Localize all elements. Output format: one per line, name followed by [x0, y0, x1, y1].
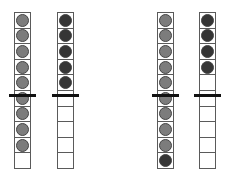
- frame-cell: [14, 90, 31, 107]
- frame-cell: [57, 90, 74, 107]
- ten-frame-column-3: [157, 12, 174, 169]
- frame-cell: [157, 106, 174, 123]
- gray-counter-circle-icon: [159, 123, 172, 136]
- five-divider-bar: [152, 94, 179, 97]
- gray-counter-circle-icon: [16, 45, 29, 58]
- frame-cell: [157, 59, 174, 76]
- gray-counter-circle-icon: [159, 29, 172, 42]
- frame-cell: [157, 74, 174, 91]
- five-divider-bar: [52, 94, 79, 97]
- frame-cell: [57, 74, 74, 91]
- frame-cell: [199, 137, 216, 154]
- frame-cell: [157, 43, 174, 60]
- frame-cell: [199, 106, 216, 123]
- gray-counter-circle-icon: [16, 107, 29, 120]
- ten-frame-column-1: [14, 12, 31, 169]
- frame-cell: [199, 59, 216, 76]
- frame-cell: [57, 59, 74, 76]
- gray-counter-circle-icon: [16, 29, 29, 42]
- frame-cell: [57, 121, 74, 138]
- frame-cell: [14, 43, 31, 60]
- frame-cell: [14, 152, 31, 169]
- dark-counter-circle-icon: [201, 45, 214, 58]
- frame-cell: [14, 121, 31, 138]
- gray-counter-circle-icon: [16, 139, 29, 152]
- frame-cell: [199, 43, 216, 60]
- frame-cell: [57, 152, 74, 169]
- dark-counter-circle-icon: [59, 29, 72, 42]
- frame-cell: [57, 106, 74, 123]
- frame-cell: [14, 137, 31, 154]
- frame-cell: [57, 28, 74, 45]
- frame-cell: [57, 137, 74, 154]
- gray-counter-circle-icon: [159, 76, 172, 89]
- gray-counter-circle-icon: [16, 123, 29, 136]
- dark-counter-circle-icon: [201, 29, 214, 42]
- dark-counter-circle-icon: [59, 14, 72, 27]
- gray-counter-circle-icon: [16, 76, 29, 89]
- frame-cell: [199, 121, 216, 138]
- gray-counter-circle-icon: [16, 61, 29, 74]
- dark-counter-circle-icon: [201, 14, 214, 27]
- frame-cell: [199, 90, 216, 107]
- frame-cell: [57, 43, 74, 60]
- dark-counter-circle-icon: [59, 61, 72, 74]
- frame-cell: [14, 28, 31, 45]
- dark-counter-circle-icon: [159, 154, 172, 167]
- frame-cell: [157, 152, 174, 169]
- frame-cell: [199, 12, 216, 29]
- frame-cell: [199, 152, 216, 169]
- frame-cell: [157, 28, 174, 45]
- frame-cell: [157, 90, 174, 107]
- ten-frame-column-2: [57, 12, 74, 169]
- gray-counter-circle-icon: [16, 14, 29, 27]
- gray-counter-circle-icon: [159, 14, 172, 27]
- frame-cell: [199, 28, 216, 45]
- gray-counter-circle-icon: [159, 45, 172, 58]
- frame-cell: [199, 74, 216, 91]
- dark-counter-circle-icon: [59, 45, 72, 58]
- frame-cell: [157, 121, 174, 138]
- gray-counter-circle-icon: [159, 61, 172, 74]
- frame-cell: [157, 12, 174, 29]
- frame-cell: [14, 12, 31, 29]
- dark-counter-circle-icon: [201, 61, 214, 74]
- frame-cell: [14, 106, 31, 123]
- gray-counter-circle-icon: [159, 107, 172, 120]
- frame-cell: [57, 12, 74, 29]
- five-divider-bar: [9, 94, 36, 97]
- ten-frame-column-4: [199, 12, 216, 169]
- dark-counter-circle-icon: [59, 76, 72, 89]
- frame-cell: [157, 137, 174, 154]
- gray-counter-circle-icon: [159, 139, 172, 152]
- frame-cell: [14, 59, 31, 76]
- five-divider-bar: [194, 94, 221, 97]
- frame-cell: [14, 74, 31, 91]
